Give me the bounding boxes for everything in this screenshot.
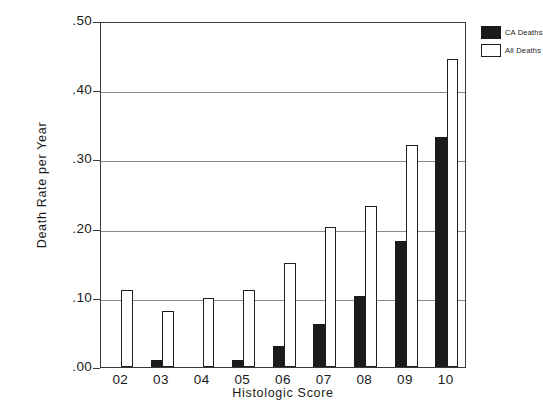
legend-item-all-deaths: All Deaths (481, 44, 537, 57)
y-tick-mark (93, 368, 100, 369)
bar-ca-deaths-07 (313, 324, 325, 367)
bar-ca-deaths-08 (354, 296, 366, 367)
bar-all-deaths-02 (121, 290, 133, 367)
x-tick-label-06: 06 (261, 372, 305, 387)
y-tick-mark (93, 160, 100, 161)
x-tick-label-05: 05 (220, 372, 264, 387)
x-tick-label-02: 02 (98, 372, 142, 387)
bar-ca-deaths-03 (151, 360, 163, 367)
bar-all-deaths-07 (325, 227, 337, 367)
bar-ca-deaths-09 (395, 241, 407, 367)
x-tick-label-09: 09 (383, 372, 427, 387)
bar-ca-deaths-10 (435, 137, 447, 367)
x-tick-label-08: 08 (342, 372, 386, 387)
bar-all-deaths-09 (406, 145, 418, 367)
bar-all-deaths-10 (447, 59, 459, 367)
y-tick-mark (93, 299, 100, 300)
legend-swatch-ca-deaths (481, 26, 501, 39)
legend-swatch-all-deaths (481, 44, 501, 57)
bar-ca-deaths-06 (273, 346, 285, 367)
bar-ca-deaths-05 (232, 360, 244, 367)
y-tick-mark (93, 230, 100, 231)
x-tick-label-04: 04 (180, 372, 224, 387)
x-axis-title: Histologic Score (100, 386, 466, 400)
bar-all-deaths-03 (162, 311, 174, 367)
bar-all-deaths-04 (203, 298, 215, 367)
y-tick-label: .30 (44, 151, 92, 166)
plot-area (100, 22, 466, 368)
y-tick-label: .10 (44, 290, 92, 305)
chart-legend: CA Deaths All Deaths (481, 26, 537, 62)
bar-all-deaths-05 (243, 290, 255, 367)
legend-label-all-deaths: All Deaths (505, 46, 541, 55)
bars-layer (101, 23, 465, 367)
y-tick-mark (93, 91, 100, 92)
y-tick-label: .20 (44, 221, 92, 236)
bar-all-deaths-08 (365, 206, 377, 367)
x-tick-label-07: 07 (302, 372, 346, 387)
legend-label-ca-deaths: CA Deaths (505, 28, 543, 37)
x-tick-label-03: 03 (139, 372, 183, 387)
bar-all-deaths-06 (284, 263, 296, 367)
y-tick-mark (93, 22, 100, 23)
y-tick-label: .00 (44, 359, 92, 374)
x-tick-label-10: 10 (424, 372, 468, 387)
y-tick-label: .40 (44, 82, 92, 97)
legend-item-ca-deaths: CA Deaths (481, 26, 537, 39)
y-tick-label: .50 (44, 13, 92, 28)
